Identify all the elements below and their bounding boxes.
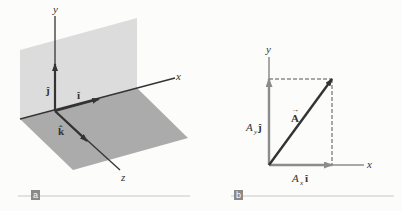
vector-a-arrow: [269, 79, 332, 165]
j-hat-label: ĵ: [45, 84, 50, 96]
panel-a: y x z ĵ î k̂ a: [18, 3, 190, 200]
svg-text:î: î: [304, 172, 309, 184]
svg-text:A: A: [245, 121, 253, 133]
y-axis-label: y: [52, 3, 58, 15]
ax-component-label: A x î: [291, 172, 309, 187]
x-axis-label: x: [175, 70, 181, 82]
svg-text:A: A: [291, 172, 299, 184]
badge-b-label: b: [236, 190, 241, 200]
z-axis-label: z: [120, 171, 126, 183]
y-axis-label-b: y: [265, 43, 271, 55]
svg-text:ĵ: ĵ: [257, 121, 262, 133]
k-hat-label: k̂: [58, 125, 65, 137]
vector-a-arrow-mark: →: [291, 105, 299, 114]
figure: y x z ĵ î k̂ a y x A → A y ĵ A: [0, 0, 402, 211]
badge-a-label: a: [33, 190, 38, 200]
ay-component-label: A y ĵ: [245, 121, 262, 136]
x-axis-label-b: x: [366, 158, 372, 170]
panel-b: y x A → A y ĵ A x î b: [231, 43, 394, 200]
vector-diagram: y x z ĵ î k̂ a y x A → A y ĵ A: [0, 0, 402, 211]
svg-text:x: x: [299, 179, 304, 187]
